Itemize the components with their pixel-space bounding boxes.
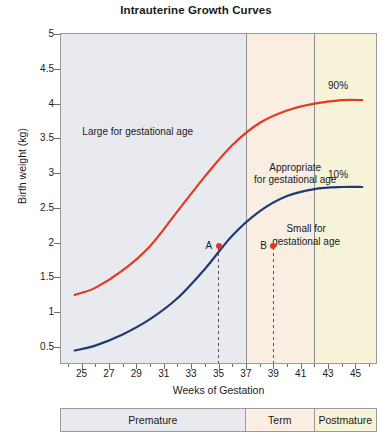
y-tick-mark (54, 208, 60, 209)
x-tick-mark (342, 364, 343, 367)
region-label-large-line-1: Large for gestational age (82, 126, 193, 139)
point-dropline-b (273, 247, 274, 363)
region-label-small-line-1: Small for (272, 223, 340, 236)
x-tick-label: 25 (70, 369, 94, 379)
y-tick-mark (54, 173, 60, 174)
x-tick-label: 37 (234, 369, 258, 379)
x-tick-mark (177, 364, 178, 367)
y-tick-mark (54, 34, 60, 35)
x-tick-label: 43 (316, 369, 340, 379)
point-dropline-a (218, 247, 219, 363)
region-label-appropriate-line-2: for gestational age (254, 174, 336, 187)
y-tick-mark (54, 243, 60, 244)
x-tick-label: 27 (97, 369, 121, 379)
x-tick-mark (369, 364, 370, 367)
region-label-appropriate-line-1: Appropriate (254, 162, 336, 175)
region-label-small-line-2: gestational age (272, 236, 340, 249)
y-tick-label: 3.5 (20, 133, 54, 143)
x-tick-label: 33 (179, 369, 203, 379)
y-tick-label: 4 (20, 99, 54, 109)
stage-cell-term: Term (245, 409, 314, 431)
x-tick-label: 45 (343, 369, 367, 379)
y-tick-label: 3 (20, 168, 54, 178)
y-tick-mark (54, 312, 60, 313)
region-label-large: Large for gestational age (82, 126, 193, 139)
y-tick-label: 1 (20, 307, 54, 317)
stage-cell-premature: Premature (61, 409, 245, 431)
x-tick-mark (95, 364, 96, 367)
y-tick-label: 1.5 (20, 272, 54, 282)
x-tick-label: 35 (207, 369, 231, 379)
data-point-label-a: A (206, 241, 213, 251)
chart-title: Intrauterine Growth Curves (0, 4, 392, 16)
stage-cell-postmature: Postmature (314, 409, 376, 431)
x-tick-label: 31 (152, 369, 176, 379)
x-tick-label: 39 (261, 369, 285, 379)
x-tick-label: 41 (289, 369, 313, 379)
y-tick-label: 2.5 (20, 203, 54, 213)
x-tick-mark (287, 364, 288, 367)
x-axis-title: Weeks of Gestation (60, 384, 377, 396)
y-tick-label: 0.5 (20, 342, 54, 352)
x-tick-mark (150, 364, 151, 367)
y-tick-label: 5 (20, 29, 54, 39)
x-tick-mark (260, 364, 261, 367)
data-point-label-b: B (260, 241, 267, 251)
x-tick-mark (232, 364, 233, 367)
y-tick-label: 2 (20, 238, 54, 248)
region-label-appropriate: Appropriatefor gestational age (254, 162, 336, 187)
x-tick-label: 29 (124, 369, 148, 379)
x-tick-mark (314, 364, 315, 367)
y-tick-mark (54, 138, 60, 139)
series-label-upper: 90% (328, 81, 348, 91)
region-label-small: Small forgestational age (272, 223, 340, 248)
y-tick-label: 4.5 (20, 64, 54, 74)
stage-cell-label: Term (268, 414, 291, 426)
gestation-stage-bar: PrematureTermPostmature (60, 408, 377, 432)
growth-chart-figure: Intrauterine Growth Curves Birth weight … (0, 0, 392, 444)
x-tick-mark (68, 364, 69, 367)
y-tick-mark (54, 277, 60, 278)
y-tick-mark (54, 69, 60, 70)
data-point-a[interactable] (216, 243, 222, 249)
stage-cell-label: Postmature (319, 414, 373, 426)
stage-cell-label: Premature (128, 414, 177, 426)
y-tick-mark (54, 347, 60, 348)
x-tick-mark (205, 364, 206, 367)
y-axis-title: Birth weight (kg) (16, 86, 28, 246)
x-tick-mark (123, 364, 124, 367)
y-tick-mark (54, 104, 60, 105)
